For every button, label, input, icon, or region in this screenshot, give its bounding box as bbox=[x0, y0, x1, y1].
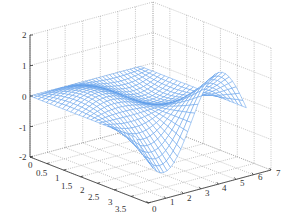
x-tick-label: 4 bbox=[222, 183, 227, 193]
y-tick-mark bbox=[114, 189, 117, 190]
y-tick-label: 2.5 bbox=[88, 192, 100, 202]
y-tick-mark bbox=[148, 202, 151, 203]
x-tick-label: 3 bbox=[205, 188, 210, 198]
y-axis-tick-labels: 00.511.522.533.5 bbox=[28, 160, 127, 214]
y-tick-mark bbox=[131, 196, 134, 197]
y-tick-mark bbox=[47, 163, 50, 164]
x-tick-label: 7 bbox=[276, 168, 281, 178]
x-axis-line bbox=[148, 170, 271, 203]
wall-grid-line bbox=[30, 2, 153, 35]
x-axis-tick-labels: 01234567 bbox=[152, 168, 281, 214]
y-tick-mark bbox=[81, 176, 84, 177]
wall-grid-line bbox=[153, 2, 271, 48]
z-tick-label: 1 bbox=[22, 61, 27, 71]
y-tick-label: 0.5 bbox=[36, 168, 48, 178]
x-tick-label: 5 bbox=[240, 178, 245, 188]
z-tick-label: 0 bbox=[22, 92, 27, 102]
floor-grid-line bbox=[131, 163, 254, 196]
y-tick-label: 1 bbox=[55, 173, 60, 183]
y-tick-label: 3.5 bbox=[115, 204, 127, 214]
z-tick-label: -2 bbox=[19, 152, 27, 162]
y-tick-label: 1.5 bbox=[61, 181, 73, 191]
y-tick-label: 3 bbox=[108, 197, 113, 207]
x-tick-label: 6 bbox=[258, 172, 263, 182]
y-tick-label: 0 bbox=[28, 160, 33, 170]
z-axis-tick-labels: 210-1-2 bbox=[19, 30, 27, 162]
y-tick-mark bbox=[64, 169, 67, 170]
floor-grid-line bbox=[114, 157, 237, 190]
y-tick-label: 2 bbox=[80, 185, 85, 195]
wall-grid-line bbox=[153, 33, 271, 79]
surface-mesh bbox=[30, 66, 246, 172]
wall-grid-line bbox=[30, 33, 153, 66]
x-tick-label: 0 bbox=[152, 204, 157, 214]
z-tick-label: 2 bbox=[22, 30, 27, 40]
x-tick-label: 2 bbox=[187, 193, 192, 203]
surface-plot: 210-1-2 00.511.522.533.5 01234567 bbox=[0, 0, 297, 219]
y-tick-mark bbox=[97, 183, 100, 184]
z-tick-label: -1 bbox=[19, 123, 27, 133]
x-tick-label: 1 bbox=[170, 197, 175, 207]
